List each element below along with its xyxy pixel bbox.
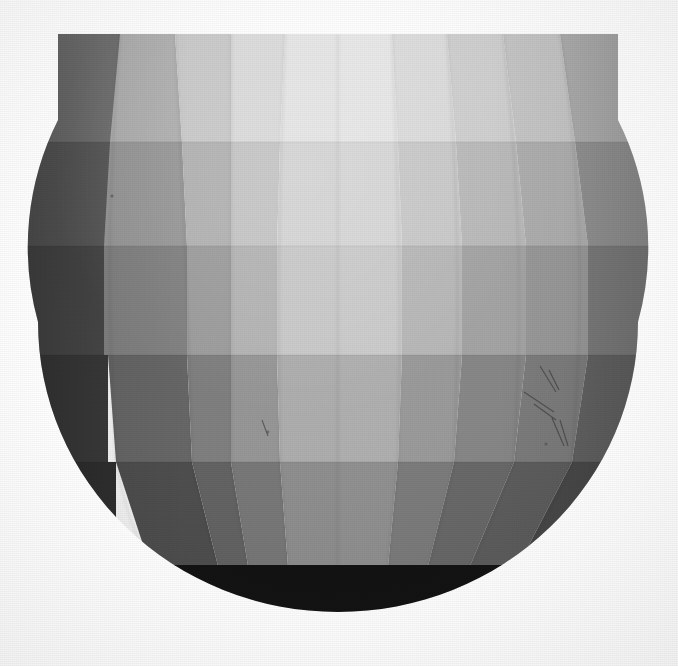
chart-ylabel: latitude band (top → bottom) (520, 657, 622, 666)
sphere-illustration: Shaded sphere gradation study (0, 0, 678, 666)
figure-description: A sphere subdivided into vertical longit… (4, 657, 531, 666)
speck-left (110, 194, 113, 197)
speck-right (545, 443, 548, 446)
figure-canvas: Shaded sphere gradation study (0, 0, 678, 666)
chart-xlabel: longitude lune (left → right) (300, 657, 396, 666)
speck-center (267, 431, 270, 434)
